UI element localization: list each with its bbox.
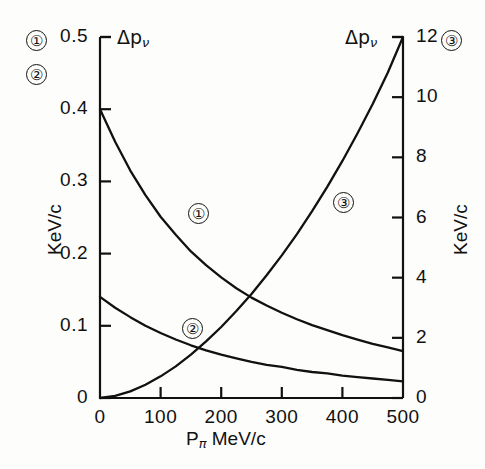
x-tick-label-5: 500 (386, 406, 419, 428)
x-tick-label-4: 400 (326, 406, 359, 428)
plot-area (0, 0, 485, 469)
left-tick-label-4: 0.4 (60, 97, 88, 119)
right-tick-label-4: 8 (416, 145, 427, 167)
left-tick-label-0: 0 (77, 386, 88, 408)
curve-tag-1: ① (188, 203, 209, 224)
curve-3 (100, 37, 403, 398)
curve-1 (100, 109, 403, 351)
left-tick-label-2: 0.2 (60, 242, 88, 264)
right-tick-label-1: 2 (416, 326, 427, 348)
right-tick-label-6: 12 (416, 25, 438, 47)
curve-tag-2: ② (182, 318, 203, 339)
left-tick-label-5: 0.5 (60, 25, 88, 47)
right-tick-label-5: 10 (416, 85, 438, 107)
right-tick-label-0: 0 (416, 386, 427, 408)
chart-figure: ① ② ③ Δpν Δpν KeV/c KeV/c Pπ MeV/c 00.10… (0, 0, 485, 469)
right-tick-label-3: 6 (416, 206, 427, 228)
x-tick-label-3: 300 (265, 406, 298, 428)
left-tick-label-1: 0.1 (60, 314, 88, 336)
left-tick-label-3: 0.3 (60, 169, 88, 191)
right-tick-label-2: 4 (416, 266, 427, 288)
x-tick-label-2: 200 (205, 406, 238, 428)
x-tick-label-1: 100 (144, 406, 177, 428)
x-tick-label-0: 0 (94, 406, 105, 428)
